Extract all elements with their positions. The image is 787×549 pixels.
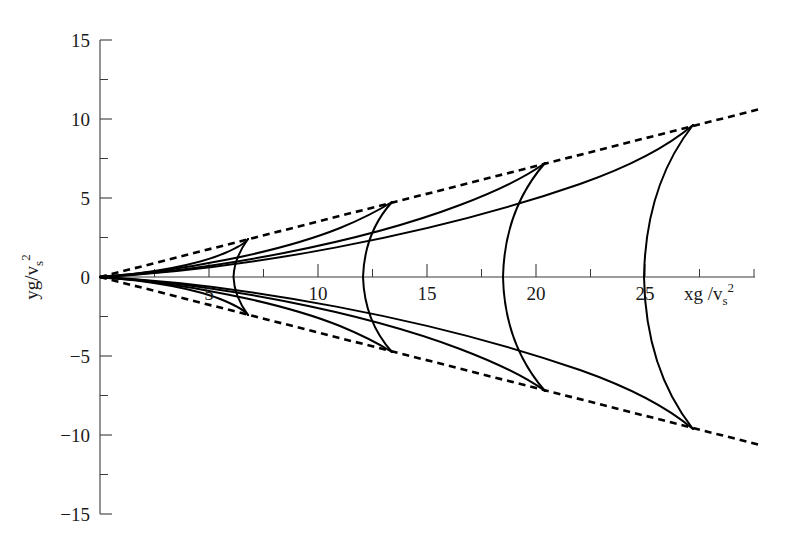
y-tick-label-neg10: −10 [60,425,90,446]
x-axis-tick-labels: 5 10 15 20 25 [204,283,654,304]
x-tick-label-10: 10 [309,283,328,304]
svg-text:yg/vs2: yg/vs2 [18,254,46,299]
x-tick-label-15: 15 [418,283,437,304]
y-axis-title-superscript: 2 [18,254,33,261]
x-tick-label-5: 5 [204,283,214,304]
y-axis-title-subscript: s [31,261,46,266]
x-tick-label-20: 20 [527,283,546,304]
y-tick-label-0: 0 [81,267,91,288]
axes-group [100,40,755,514]
x-axis-title: xg /vs2 [684,280,734,308]
svg-text:xg /vs2: xg /vs2 [684,280,734,308]
y-axis-title-base: yg/v [21,265,42,299]
kelvin-wake-figure: 15 10 5 0 −5 −10 −15 5 10 15 20 25 xg /v… [0,0,787,549]
y-tick-label-10: 10 [71,109,90,130]
x-axis-title-subscript: s [723,293,728,308]
kelvin-wake-plot: 15 10 5 0 −5 −10 −15 5 10 15 20 25 xg /v… [0,0,787,549]
y-tick-label-5: 5 [81,188,91,209]
y-tick-label-neg5: −5 [70,346,90,367]
y-tick-label-15: 15 [71,30,90,51]
x-axis-title-base: xg /v [684,283,723,304]
x-axis-major-ticks [209,264,645,277]
x-tick-label-25: 25 [636,283,655,304]
y-tick-label-neg15: −15 [60,504,90,525]
x-axis-title-superscript: 2 [728,280,735,295]
y-axis-title: yg/vs2 [18,254,46,299]
x-axis-minor-ticks [155,269,755,277]
kelvin-envelope-upper-line [100,109,760,277]
y-axis-tick-labels: 15 10 5 0 −5 −10 −15 [60,30,90,525]
